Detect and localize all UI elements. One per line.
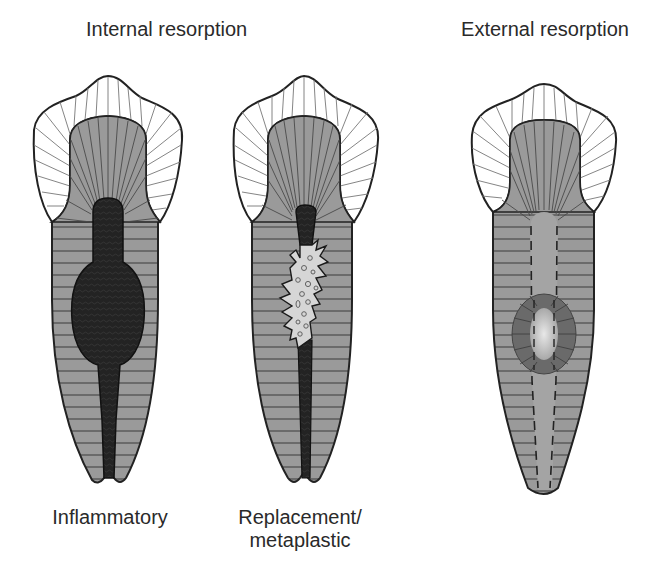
- tooth-replacement: [234, 76, 378, 482]
- pulp-chamber: [296, 205, 316, 245]
- tooth-inflammatory: [34, 76, 182, 483]
- tooth-external: [472, 84, 616, 494]
- teeth-diagram: [0, 0, 664, 568]
